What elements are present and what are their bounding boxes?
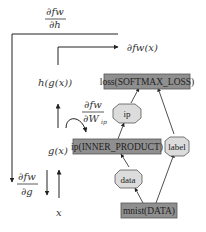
svg-text:data: data — [121, 175, 136, 185]
node-ip-layer[interactable]: ip(INNER_PRODUCT) — [71, 139, 163, 154]
node-mnist-layer[interactable]: mnist(DATA) — [121, 203, 177, 218]
edge-ip-layer-to-ip-blob — [118, 123, 124, 139]
network-diagram: ∂fw ∂h ∂fw(x) h(g(x)) ∂fw ∂W ip g(x) ∂fw… — [0, 0, 206, 232]
svg-text:∂W: ∂W — [83, 113, 99, 124]
svg-text:ip: ip — [101, 118, 107, 126]
node-ip-blob[interactable]: ip — [113, 104, 141, 123]
top-gradient-label: ∂fw ∂h — [45, 6, 66, 30]
edge-ip-blob-to-loss — [131, 88, 139, 103]
output-label: ∂fw(x) — [127, 42, 158, 53]
weight-gradient-label: ∂fw ∂W ip — [82, 99, 107, 126]
edge-label-to-loss — [158, 88, 174, 134]
svg-text:∂fw: ∂fw — [46, 6, 64, 17]
forward-arrow-output — [58, 47, 118, 65]
node-data-blob[interactable]: data — [115, 170, 142, 188]
svg-text:ip(INNER_PRODUCT): ip(INNER_PRODUCT) — [71, 142, 163, 153]
node-loss-layer[interactable]: loss(SOFTMAX_LOSS) — [100, 74, 195, 89]
gx-label: g(x) — [48, 145, 68, 156]
hgx-label: h(g(x)) — [38, 77, 72, 88]
edge-mnist-to-label — [156, 154, 174, 203]
x-label: x — [56, 207, 62, 218]
svg-text:∂h: ∂h — [49, 19, 61, 30]
svg-text:label: label — [168, 142, 186, 152]
svg-text:∂fw: ∂fw — [84, 99, 102, 110]
edge-mnist-to-data — [135, 188, 143, 203]
svg-text:∂g: ∂g — [21, 186, 33, 197]
svg-text:ip: ip — [123, 109, 131, 119]
svg-text:mnist(DATA): mnist(DATA) — [123, 206, 175, 217]
node-label-blob[interactable]: label — [165, 137, 189, 156]
backward-arrow-long — [12, 34, 118, 182]
svg-text:loss(SOFTMAX_LOSS): loss(SOFTMAX_LOSS) — [100, 77, 195, 88]
svg-text:∂fw: ∂fw — [18, 171, 36, 182]
g-gradient-label: ∂fw ∂g — [17, 171, 38, 197]
edge-data-to-ip-layer — [121, 154, 129, 167]
